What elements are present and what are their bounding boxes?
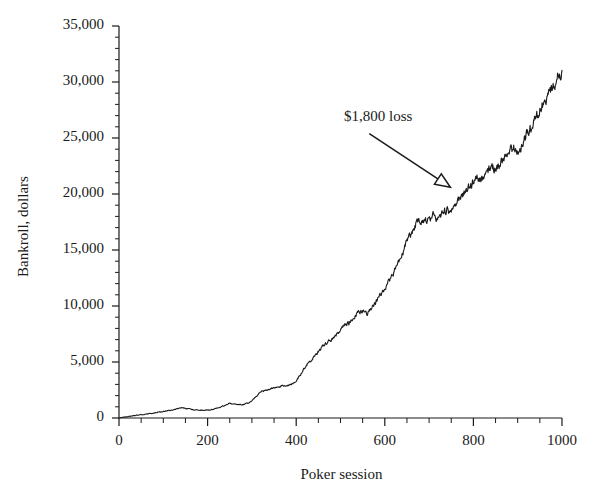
y-tick-label: 20,000	[24, 184, 104, 201]
y-tick-label: 30,000	[24, 72, 104, 89]
y-tick-label: 15,000	[24, 240, 104, 257]
x-tick-label: 0	[84, 432, 154, 449]
annotation-arrow-head	[434, 174, 450, 187]
y-tick-label: 5,000	[24, 352, 104, 369]
y-tick-label: 25,000	[24, 128, 104, 145]
x-tick-label: 200	[173, 432, 243, 449]
y-tick-label: 35,000	[24, 16, 104, 33]
x-axis-title: Poker session	[219, 466, 464, 483]
x-tick-label: 1000	[527, 432, 597, 449]
y-tick-label: 10,000	[24, 296, 104, 313]
loss-annotation-label: $1,800 loss	[344, 108, 412, 125]
y-axis-title: Bankroll, dollars	[15, 142, 32, 312]
x-tick-label: 800	[438, 432, 508, 449]
bankroll-line	[119, 70, 562, 418]
x-tick-label: 600	[350, 432, 420, 449]
poker-bankroll-chart: Bankroll, dollars Poker session $1,800 l…	[0, 0, 605, 499]
y-tick-label: 0	[24, 408, 104, 425]
x-tick-label: 400	[261, 432, 331, 449]
annotation-arrow-shaft	[369, 134, 438, 179]
